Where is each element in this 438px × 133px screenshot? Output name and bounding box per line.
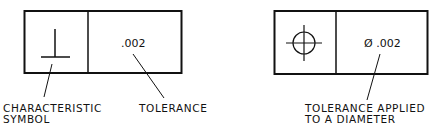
left-tolerance-value: .002 <box>121 37 146 50</box>
symbol-leader-line <box>44 64 52 97</box>
position-icon <box>286 25 322 61</box>
left-feature-control-frame <box>25 11 182 73</box>
tolerance-leader-line <box>133 54 164 98</box>
symbol-label: SYMBOL <box>3 114 50 125</box>
tolerance-label: TOLERANCE <box>139 103 207 114</box>
right-tolerance-value: Ø .002 <box>364 37 401 50</box>
to-a-diameter-label: TO A DIAMETER <box>305 114 396 125</box>
diameter-tolerance-leader-line <box>367 54 380 100</box>
perpendicularity-icon <box>41 29 70 57</box>
